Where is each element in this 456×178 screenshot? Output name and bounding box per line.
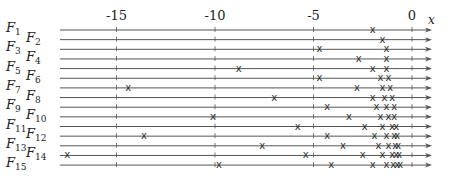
point-marker: x bbox=[316, 72, 322, 83]
row-label: F13 bbox=[5, 136, 27, 153]
point-marker: x bbox=[383, 159, 389, 170]
point-marker: x bbox=[295, 121, 301, 132]
tick-label: -10 bbox=[205, 8, 226, 23]
function-row: F9xxxx bbox=[5, 97, 432, 114]
function-rows: F1xF2xF3xxF4xxF5xxxF6xxxF7xxxxF8xxxxF9xx… bbox=[5, 20, 432, 172]
point-marker: x bbox=[64, 149, 70, 160]
point-marker: x bbox=[271, 92, 277, 103]
tick-label: 0 bbox=[408, 8, 416, 23]
point-marker: x bbox=[328, 159, 334, 170]
point-marker: x bbox=[141, 130, 147, 141]
point-marker: x bbox=[346, 111, 352, 122]
point-marker: x bbox=[316, 43, 322, 54]
point-marker: x bbox=[340, 140, 346, 151]
function-row: F12xxxxxx bbox=[25, 126, 432, 143]
x-axis-label: x bbox=[428, 13, 435, 27]
axis-label-x: x bbox=[428, 13, 435, 27]
row-label: F2 bbox=[25, 30, 41, 47]
point-marker: x bbox=[360, 149, 366, 160]
point-marker: x bbox=[210, 111, 216, 122]
function-row: F5xxx bbox=[5, 59, 432, 76]
point-marker: x bbox=[356, 53, 362, 64]
point-marker: x bbox=[324, 101, 330, 112]
row-label: F10 bbox=[25, 107, 47, 124]
axis-tick-labels: -15-10-50 bbox=[106, 8, 416, 23]
point-marker: x bbox=[216, 159, 222, 170]
row-label: F14 bbox=[25, 145, 47, 162]
row-label: F6 bbox=[25, 68, 41, 85]
point-marker: x bbox=[370, 63, 376, 74]
point-marker: x bbox=[125, 82, 131, 93]
function-row: F3xx bbox=[5, 39, 432, 56]
function-row: F8xxxx bbox=[25, 88, 432, 105]
row-label: F8 bbox=[25, 88, 41, 105]
row-label: F12 bbox=[25, 126, 46, 143]
function-row: F7xxxx bbox=[5, 78, 432, 95]
point-marker: x bbox=[370, 24, 376, 35]
point-marker: x bbox=[362, 121, 368, 132]
point-marker: x bbox=[236, 63, 242, 74]
row-label: F15 bbox=[5, 155, 27, 172]
point-marker: x bbox=[354, 82, 360, 93]
tick-label: -15 bbox=[106, 8, 127, 23]
row-label: F1 bbox=[5, 20, 21, 37]
tick-label: -5 bbox=[307, 8, 320, 23]
row-label: F5 bbox=[5, 59, 21, 76]
point-marker: x bbox=[324, 130, 330, 141]
point-marker: x bbox=[303, 149, 309, 160]
row-label: F9 bbox=[5, 97, 21, 114]
row-label: F3 bbox=[5, 39, 21, 56]
point-marker: x bbox=[259, 140, 265, 151]
row-label: F4 bbox=[25, 49, 41, 66]
point-marker: x bbox=[370, 159, 376, 170]
number-line-diagram: -15-10-50 x F1xF2xF3xxF4xxF5xxxF6xxxF7xx… bbox=[0, 0, 456, 178]
row-label: F7 bbox=[5, 78, 21, 95]
point-marker: x bbox=[397, 159, 403, 170]
function-row: F11xxxxx bbox=[5, 117, 432, 134]
function-row: F10xxxxx bbox=[25, 107, 432, 124]
row-label: F11 bbox=[5, 117, 26, 134]
